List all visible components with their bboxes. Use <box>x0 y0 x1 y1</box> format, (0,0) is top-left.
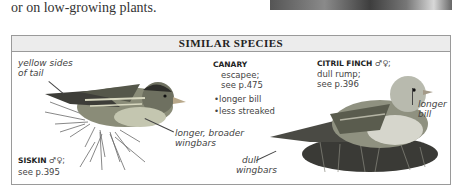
canary-bullets: longer bill less streaked <box>214 93 275 117</box>
siskin-name-row: SISKIN ♂♀; <box>18 155 65 166</box>
label-line: longer <box>418 99 447 109</box>
canary-name: CANARY <box>213 59 247 70</box>
label-line: bill <box>418 109 447 119</box>
citril-page-ref: see p.396 <box>317 79 359 89</box>
canary-page-ref: see p.475 <box>221 80 263 90</box>
sex-symbols: ♂♀; <box>49 156 65 165</box>
label-line: of tail <box>18 68 73 78</box>
bullet-less-streaked: less streaked <box>214 105 275 117</box>
siskin-name: SISKIN <box>18 156 46 165</box>
leader-line-bill <box>412 88 413 105</box>
sex-symbols: ♂♀; <box>375 59 391 68</box>
bullet-longer-bill: longer bill <box>214 93 275 105</box>
bird-photo-strip <box>270 0 452 10</box>
label-line: yellow sides <box>18 58 73 68</box>
citril-name-row: CITRIL FINCH ♂♀; <box>317 58 391 69</box>
citril-finch-bird-icon <box>270 72 450 177</box>
label-dull-wingbars: dull wingbars <box>236 155 277 175</box>
label-line: wingbars <box>175 138 244 148</box>
label-longer-broader-wingbars: longer, broader wingbars <box>175 128 244 148</box>
siskin-page-ref: see p.395 <box>18 167 60 177</box>
citril-dull-rump: dull rump; <box>317 69 361 79</box>
label-yellow-sides-of-tail: yellow sides of tail <box>18 58 73 78</box>
citril-finch-name: CITRIL FINCH <box>317 59 372 68</box>
canary-escapee: escapee; <box>221 70 259 80</box>
label-line: wingbars <box>236 165 277 175</box>
box-title: SIMILAR SPECIES <box>12 36 450 52</box>
label-line: longer, broader <box>175 128 244 138</box>
label-longer-bill: longer bill <box>418 99 447 119</box>
intro-text: or on low-growing plants. <box>11 0 156 16</box>
